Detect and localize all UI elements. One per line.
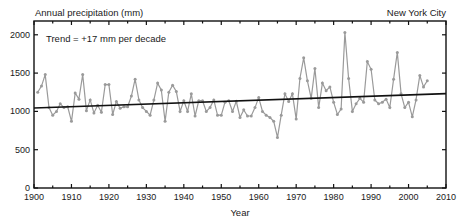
data-point — [186, 110, 189, 113]
y-axis-title: Annual precipitation (mm) — [35, 7, 143, 18]
data-point — [253, 106, 256, 109]
data-point — [426, 79, 429, 82]
data-point — [411, 115, 414, 118]
x-tick-label: 1920 — [99, 192, 119, 202]
x-tick-label: 1900 — [24, 192, 44, 202]
data-point — [126, 105, 129, 108]
data-point — [119, 107, 122, 110]
data-point — [295, 118, 298, 121]
data-point — [343, 31, 346, 34]
data-point — [268, 116, 271, 119]
data-point — [156, 82, 159, 85]
data-point — [36, 91, 39, 94]
trend-annotation: Trend = +17 mm per decade — [46, 33, 166, 44]
data-point — [388, 106, 391, 109]
data-point — [59, 102, 62, 105]
x-tick-label: 1990 — [361, 192, 381, 202]
data-point — [280, 114, 283, 117]
data-point — [302, 56, 305, 59]
data-point — [325, 89, 328, 92]
data-point — [370, 68, 373, 71]
data-point — [231, 110, 234, 113]
data-point — [74, 92, 77, 95]
y-tick-label: 2000 — [10, 30, 30, 40]
data-point — [220, 114, 223, 117]
data-point — [179, 110, 182, 113]
data-point — [134, 78, 137, 81]
data-point — [392, 78, 395, 81]
data-point — [205, 110, 208, 113]
data-point — [396, 51, 399, 54]
data-point — [137, 98, 140, 101]
data-point — [190, 92, 193, 95]
data-point — [51, 114, 54, 117]
data-point — [89, 98, 92, 101]
data-point — [347, 77, 350, 80]
data-point — [111, 113, 114, 116]
data-point — [77, 98, 80, 101]
precipitation-line — [38, 33, 428, 138]
y-tick-label: 1000 — [10, 106, 30, 116]
data-point — [100, 111, 103, 114]
data-point — [298, 77, 301, 80]
data-point — [385, 98, 388, 101]
plot-frame — [34, 21, 446, 188]
data-point — [209, 106, 212, 109]
data-point — [194, 114, 197, 117]
data-point — [403, 106, 406, 109]
x-tick-label: 1950 — [211, 192, 231, 202]
y-tick-label: 500 — [15, 145, 30, 155]
data-point — [149, 114, 152, 117]
data-point — [261, 110, 264, 113]
data-point — [306, 79, 309, 82]
data-point — [291, 92, 294, 95]
x-axis-label: Year — [230, 207, 249, 218]
x-tick-label: 1930 — [136, 192, 156, 202]
data-point — [107, 83, 110, 86]
plot-area: 1900191019201930194019501960197019801990… — [10, 21, 456, 202]
data-point — [216, 114, 219, 117]
data-point — [92, 111, 95, 114]
data-point — [70, 120, 73, 123]
data-point — [373, 98, 376, 101]
location-label: New York City — [387, 7, 446, 18]
data-point — [321, 82, 324, 85]
data-point — [160, 88, 163, 91]
data-point — [164, 120, 167, 123]
x-tick-label: 1910 — [61, 192, 81, 202]
data-point — [152, 98, 155, 101]
data-point — [141, 106, 144, 109]
data-point — [272, 120, 275, 123]
data-point — [355, 102, 358, 105]
data-point — [340, 108, 343, 111]
data-point — [171, 84, 174, 87]
data-point — [336, 113, 339, 116]
data-point — [422, 85, 425, 88]
data-point — [276, 136, 279, 139]
data-point — [104, 83, 107, 86]
data-point — [44, 73, 47, 76]
data-point — [377, 102, 380, 105]
data-point — [328, 85, 331, 88]
data-point — [122, 105, 125, 108]
data-point — [265, 114, 268, 117]
precipitation-chart: Annual precipitation (mm) New York City … — [0, 0, 466, 223]
data-point — [115, 100, 118, 103]
data-point — [81, 73, 84, 76]
data-point — [332, 101, 335, 104]
x-tick-label: 2000 — [399, 192, 419, 202]
data-point — [415, 98, 418, 101]
y-tick-label: 0 — [25, 183, 30, 193]
data-point — [145, 110, 148, 113]
y-tick-label: 1500 — [10, 68, 30, 78]
data-point — [351, 110, 354, 113]
data-point — [257, 96, 260, 99]
data-point — [418, 74, 421, 77]
data-point — [317, 106, 320, 109]
data-point — [283, 92, 286, 95]
x-tick-label: 1970 — [286, 192, 306, 202]
data-point — [313, 67, 316, 70]
data-point — [182, 99, 185, 102]
data-point — [242, 108, 245, 111]
data-point — [246, 114, 249, 117]
